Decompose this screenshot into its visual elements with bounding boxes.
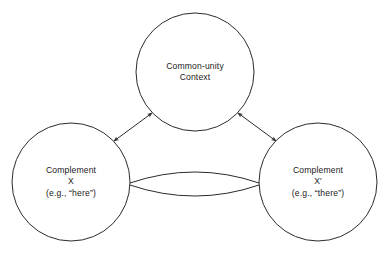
connector-lens-arc-upper (130, 172, 259, 183)
node-label-line: Complement (292, 165, 344, 176)
node-label-line: Common-unity (166, 61, 224, 72)
node-label-line: Context (166, 72, 224, 83)
diagram-canvas: Common-unity Context Complement X (e.g.,… (0, 0, 389, 253)
diagram-vector-layer (0, 0, 389, 253)
connector-context-to-right (238, 113, 276, 141)
node-label-complement-x-prime: Complement X′ (e.g., “there”) (292, 165, 344, 199)
connector-lens-arc-lower (130, 185, 259, 196)
node-label-line: (e.g., “there”) (292, 188, 344, 199)
node-label-line: X (46, 176, 96, 187)
node-label-line: X′ (292, 176, 344, 187)
node-label-common-unity-context: Common-unity Context (166, 61, 224, 84)
node-label-complement-x: Complement X (e.g., “here”) (46, 165, 96, 199)
node-label-line: Complement (46, 165, 96, 176)
node-label-line: (e.g., “here”) (46, 188, 96, 199)
connector-left-to-context (114, 113, 152, 141)
